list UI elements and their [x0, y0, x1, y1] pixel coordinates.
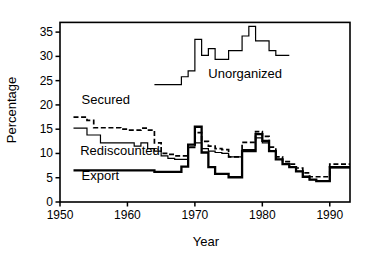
line-chart: 19501960197019801990 05101520253035 Unor… [0, 0, 365, 254]
annotation-rediscounted: Rediscounted [80, 143, 160, 158]
y-axis-title: Percentage [4, 77, 19, 144]
svg-text:15: 15 [40, 122, 54, 136]
x-axis-title: Year [193, 234, 220, 249]
svg-text:25: 25 [40, 74, 54, 88]
svg-text:1950: 1950 [47, 208, 74, 222]
y-axis-ticks: 05101520253035 [40, 25, 60, 209]
svg-text:0: 0 [46, 195, 53, 209]
svg-text:1980: 1980 [249, 208, 276, 222]
annotation-secured: Secured [82, 92, 130, 107]
annotation-export: Export [82, 168, 120, 183]
svg-text:10: 10 [40, 146, 54, 160]
svg-text:1960: 1960 [114, 208, 141, 222]
svg-text:20: 20 [40, 98, 54, 112]
svg-text:1990: 1990 [316, 208, 343, 222]
svg-text:1970: 1970 [182, 208, 209, 222]
annotation-unorganized: Unorganized [208, 66, 282, 81]
chart-figure: 19501960197019801990 05101520253035 Unor… [0, 0, 365, 254]
svg-text:5: 5 [46, 171, 53, 185]
x-axis-ticks: 19501960197019801990 [47, 202, 344, 222]
svg-text:35: 35 [40, 25, 54, 39]
svg-text:30: 30 [40, 49, 54, 63]
